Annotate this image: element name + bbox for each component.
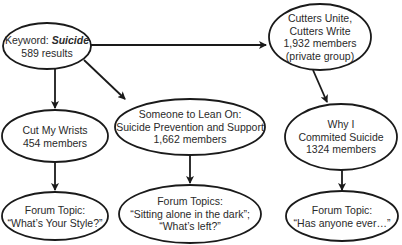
keyword-prefix: Keyword: (5, 34, 52, 46)
node-topic-middle: Forum Topics: “Sitting alone in the dark… (130, 195, 250, 233)
forum-topic-title: “Sitting alone in the dark”; (130, 208, 250, 221)
forum-topic-heading: Forum Topic: (8, 204, 103, 217)
node-title-line: Why I (298, 118, 383, 131)
forum-topic-title: “What’s Your Style?” (8, 216, 103, 229)
edge-keyword-to-someone-to-lean-on (84, 60, 125, 99)
forum-topic-title: “Has anyone ever…” (294, 216, 391, 229)
keyword-result-count: 589 results (5, 46, 89, 59)
node-keyword: Keyword: Suicide 589 results (5, 34, 89, 59)
member-count: 1,932 members (284, 37, 357, 50)
edge-cutters-unite-to-why-i-commited (313, 70, 327, 102)
forum-topic-title: “What’s left?” (130, 220, 250, 233)
node-why-i-commited: Why I Commited Suicide 1324 members (298, 118, 383, 156)
node-cutters-unite: Cutters Unite, Cutters Write 1,932 membe… (284, 12, 357, 62)
node-topic-right: Forum Topic: “Has anyone ever…” (294, 204, 391, 229)
node-title-line: Cut My Wrists (22, 124, 87, 137)
node-title-line: Cutters Unite, (284, 12, 357, 25)
member-count: 1324 members (298, 143, 383, 156)
node-title-line: Commited Suicide (298, 131, 383, 144)
node-cut-my-wrists: Cut My Wrists 454 members (22, 124, 87, 149)
node-title-line: Someone to Lean On: (116, 108, 264, 121)
node-title-line: Suicide Prevention and Support (116, 121, 264, 134)
group-privacy-note: (private group) (284, 50, 357, 63)
forum-topic-heading: Forum Topic: (294, 204, 391, 217)
node-someone-to-lean-on: Someone to Lean On: Suicide Prevention a… (116, 108, 264, 146)
forum-topic-heading: Forum Topics: (130, 195, 250, 208)
member-count: 454 members (22, 136, 87, 149)
keyword-term: Suicide (52, 34, 89, 46)
node-title-line: Cutters Write (284, 25, 357, 38)
keyword-label-line: Keyword: Suicide (5, 34, 89, 47)
member-count: 1,662 members (116, 133, 264, 146)
node-topic-left: Forum Topic: “What’s Your Style?” (8, 204, 103, 229)
